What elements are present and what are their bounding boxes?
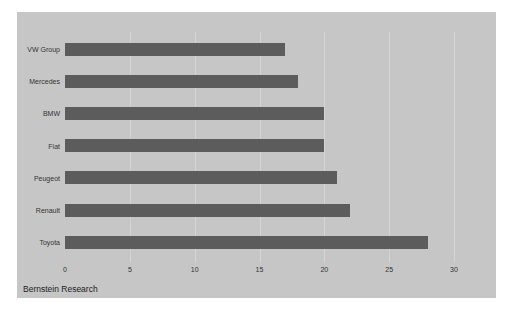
gridline: [389, 32, 390, 262]
category-label: Renault: [36, 207, 60, 214]
source-note: Bernstein Research: [23, 284, 98, 294]
gridline: [454, 32, 455, 262]
x-tick-label: 20: [320, 266, 328, 273]
gridline: [324, 32, 325, 262]
x-tick-label: 15: [256, 266, 264, 273]
x-tick-label: 10: [191, 266, 199, 273]
x-tick-label: 25: [385, 266, 393, 273]
x-tick-label: 5: [128, 266, 132, 273]
category-label: Peugeot: [34, 174, 60, 181]
bar: [65, 139, 324, 152]
bar: [65, 43, 285, 56]
chart-container: Bernstein Research 051015202530VW GroupM…: [17, 12, 496, 298]
bar: [65, 171, 337, 184]
bar: [65, 75, 298, 88]
category-label: Toyota: [39, 239, 60, 246]
category-label: VW Group: [27, 46, 60, 53]
bar: [65, 236, 428, 249]
category-label: Mercedes: [29, 78, 60, 85]
category-label: Fiat: [48, 142, 60, 149]
bar: [65, 107, 324, 120]
bar: [65, 204, 350, 217]
x-tick-label: 30: [450, 266, 458, 273]
plot-area: [65, 12, 454, 262]
category-label: BMW: [43, 110, 60, 117]
x-tick-label: 0: [63, 266, 67, 273]
